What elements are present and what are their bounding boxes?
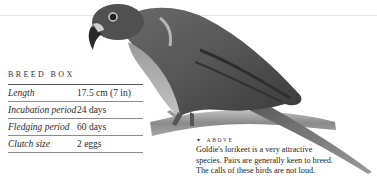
- breed-box-table: Length 17.5 cm (7 in) Incubation period …: [8, 84, 143, 153]
- table-row: Incubation period 24 days: [8, 102, 143, 119]
- caption-heading: ✦ABOVE: [196, 136, 376, 145]
- caption-heading-text: ABOVE: [207, 137, 234, 143]
- row-label: Fledging period: [8, 119, 77, 136]
- row-value: 60 days: [77, 119, 143, 136]
- table-row: Fledging period 60 days: [8, 119, 143, 136]
- diamond-bullet-icon: ✦: [196, 137, 203, 143]
- table-row: Clutch size 2 eggs: [8, 136, 143, 153]
- breed-box: BREED BOX Length 17.5 cm (7 in) Incubati…: [8, 70, 143, 153]
- caption-line: Goldie's lorikeet is a very attractive: [196, 145, 376, 156]
- row-label: Clutch size: [8, 136, 77, 153]
- eye: [109, 13, 117, 21]
- photo-caption: ✦ABOVE Goldie's lorikeet is a very attra…: [196, 136, 376, 177]
- row-value: 17.5 cm (7 in): [77, 85, 143, 102]
- row-value: 2 eggs: [77, 136, 143, 153]
- row-value: 24 days: [77, 102, 143, 119]
- breed-box-title: BREED BOX: [8, 70, 143, 80]
- table-row: Length 17.5 cm (7 in): [8, 85, 143, 102]
- row-label: Incubation period: [8, 102, 77, 119]
- caption-line: species. Pairs are generally keen to bre…: [196, 156, 376, 167]
- caption-line: The calls of these birds are not loud.: [196, 166, 376, 177]
- row-label: Length: [8, 85, 77, 102]
